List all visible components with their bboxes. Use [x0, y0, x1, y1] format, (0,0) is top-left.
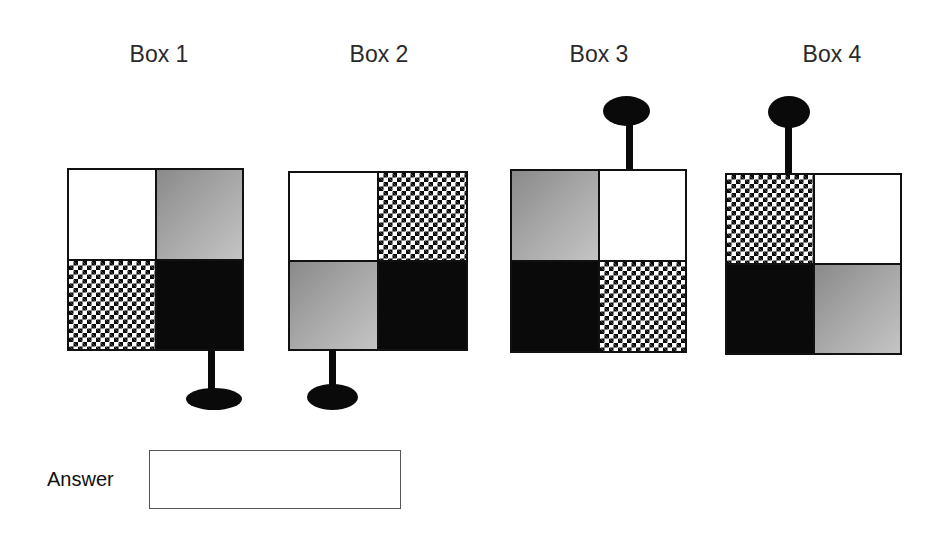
- answer-input[interactable]: [149, 450, 401, 509]
- box-3-cell-bottom-left-black: [512, 262, 598, 351]
- box-1-cell-bottom-right-black: [157, 261, 243, 350]
- box-1-label: Box 1: [130, 43, 189, 66]
- box-4-cell-bottom-right-gray: [815, 265, 901, 353]
- answer-label: Answer: [47, 469, 114, 489]
- box-2[interactable]: [288, 171, 468, 351]
- box-2-handle-knob-icon: [307, 384, 358, 410]
- box-2-cell-bottom-right-black: [379, 262, 466, 349]
- box-2-cell-top-left-white: [290, 173, 377, 260]
- box-2-cell-bottom-left-gray: [290, 262, 377, 349]
- box-4-handle-stem: [785, 124, 792, 174]
- box-4[interactable]: [725, 173, 902, 355]
- box-2-handle-stem: [329, 350, 336, 388]
- box-3-label: Box 3: [570, 43, 629, 66]
- box-1-cell-bottom-left-checker: [69, 261, 155, 350]
- box-1[interactable]: [67, 168, 244, 351]
- box-3-handle-stem: [626, 122, 633, 170]
- box-1-handle-stem: [208, 350, 215, 392]
- box-4-cell-top-right-white: [815, 175, 901, 263]
- box-4-cell-bottom-left-black: [727, 265, 813, 353]
- box-3-cell-top-left-gray: [512, 171, 598, 260]
- box-1-cell-top-right-gray: [157, 170, 243, 259]
- box-3-cell-top-right-white: [600, 171, 686, 260]
- box-4-cell-top-left-checker: [727, 175, 813, 263]
- box-3-cell-bottom-right-checker: [600, 262, 686, 351]
- box-2-cell-top-right-checker: [379, 173, 466, 260]
- box-2-label: Box 2: [350, 43, 409, 66]
- box-1-handle-knob-icon: [186, 388, 242, 410]
- box-3[interactable]: [510, 169, 687, 353]
- box-1-cell-top-left-white: [69, 170, 155, 259]
- box-4-label: Box 4: [803, 43, 862, 66]
